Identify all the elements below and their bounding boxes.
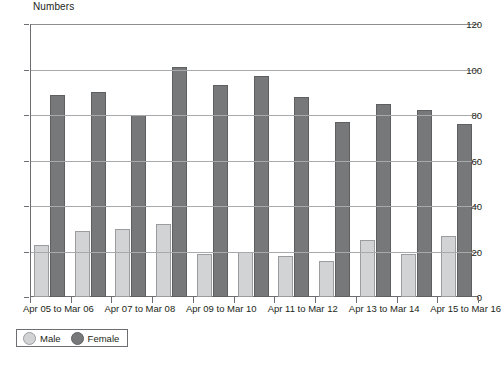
y-axis-title: Numbers	[33, 1, 74, 12]
gridline-80	[31, 115, 479, 116]
gridline-20	[31, 252, 479, 253]
bar-female[interactable]	[417, 110, 432, 297]
bar-male[interactable]	[360, 240, 375, 297]
bar-female[interactable]	[172, 67, 187, 297]
legend-label-male: Male	[40, 333, 61, 344]
x-axis-label: Apr 13 to Mar 14	[349, 303, 420, 314]
bar-male[interactable]	[115, 229, 130, 297]
gridline-40	[31, 206, 479, 207]
female-circle-swatch	[71, 332, 84, 345]
bar-female[interactable]	[335, 122, 350, 297]
bar-female[interactable]	[50, 95, 65, 297]
y-tick-mark-80	[24, 115, 29, 116]
x-axis-label: Apr 11 to Mar 12	[268, 303, 338, 314]
bar-male[interactable]	[34, 245, 49, 297]
bar-female[interactable]	[376, 104, 391, 297]
bar-male[interactable]	[156, 224, 171, 297]
bar-male[interactable]	[278, 256, 293, 297]
bar-male[interactable]	[441, 236, 456, 297]
bar-male[interactable]	[319, 261, 334, 297]
y-tick-mark-20	[24, 252, 29, 253]
y-tick-mark-60	[24, 161, 29, 162]
legend-item-male[interactable]: Male	[23, 332, 61, 345]
x-axis-label: Apr 07 to Mar 08	[104, 303, 175, 314]
x-axis-label: Apr 05 to Mar 06	[23, 303, 94, 314]
bar-male[interactable]	[75, 231, 90, 297]
y-tick-mark-100	[24, 70, 29, 71]
gridline-120	[31, 24, 479, 25]
y-tick-mark-40	[24, 206, 29, 207]
legend-label-female: Female	[88, 333, 120, 344]
bar-male[interactable]	[401, 254, 416, 297]
bar-male[interactable]	[197, 254, 212, 297]
y-tick-label-80: 80	[456, 110, 482, 121]
bar-male[interactable]	[238, 252, 253, 298]
chart-legend: Male Female	[16, 329, 128, 347]
bar-female[interactable]	[213, 85, 228, 297]
bar-female[interactable]	[294, 97, 309, 297]
gridline-100	[31, 70, 479, 71]
y-tick-label-20: 20	[456, 246, 482, 257]
y-tick-label-60: 60	[456, 155, 482, 166]
y-tick-mark-0	[24, 297, 29, 298]
bar-female[interactable]	[91, 92, 106, 297]
legend-item-female[interactable]: Female	[71, 332, 120, 345]
y-tick-label-40: 40	[456, 201, 482, 212]
y-tick-label-100: 100	[456, 64, 482, 75]
gridline-60	[31, 161, 479, 162]
male-circle-swatch	[23, 332, 36, 345]
x-axis-label: Apr 09 to Mar 10	[186, 303, 257, 314]
x-axis-label: Apr 15 to Mar 16	[430, 303, 501, 314]
y-tick-label-120: 120	[456, 19, 482, 30]
bar-female[interactable]	[254, 76, 269, 297]
y-tick-mark-120	[24, 24, 29, 25]
plot-area	[30, 24, 478, 297]
